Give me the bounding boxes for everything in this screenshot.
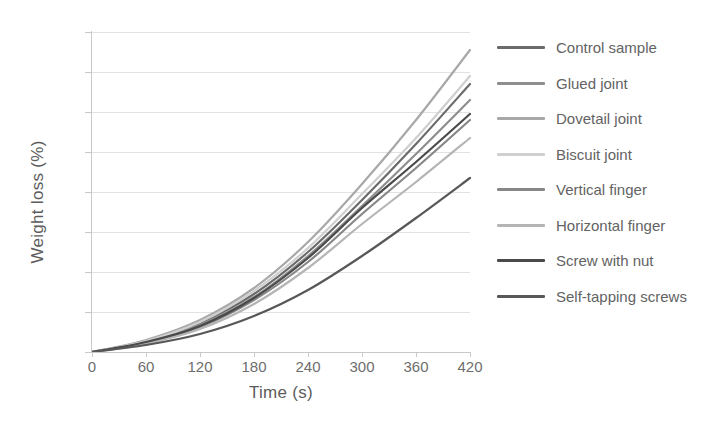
- x-tick-mark: [254, 352, 255, 357]
- x-tick-label: 300: [349, 358, 374, 375]
- legend-swatch-line-icon: [497, 153, 545, 156]
- x-tick-label: 420: [457, 358, 482, 375]
- x-tick-label: 60: [138, 358, 155, 375]
- legend-item[interactable]: Biscuit joint: [497, 137, 712, 173]
- legend-item[interactable]: Self-tapping screws: [497, 279, 712, 315]
- x-tick-mark: [362, 352, 363, 357]
- x-tick-mark: [146, 352, 147, 357]
- legend-swatch-line-icon: [497, 82, 545, 85]
- y-axis-title: Weight loss (%): [28, 82, 48, 322]
- y-tick-mark: [85, 152, 91, 153]
- legend-label: Glued joint: [556, 76, 628, 91]
- x-tick-mark: [308, 352, 309, 357]
- x-tick-label: 240: [295, 358, 320, 375]
- legend-item[interactable]: Horizontal finger: [497, 208, 712, 244]
- legend-label: Screw with nut: [556, 253, 654, 268]
- legend-swatch-line-icon: [497, 259, 545, 262]
- x-tick-label: 120: [187, 358, 212, 375]
- y-axis-line: [91, 31, 92, 353]
- legend-item[interactable]: Glued joint: [497, 66, 712, 102]
- y-tick-mark: [85, 352, 91, 353]
- x-tick-label: 360: [403, 358, 428, 375]
- x-axis-ticks: 060120180240300360420: [0, 358, 720, 382]
- x-axis-title: Time (s): [92, 383, 470, 403]
- plot-area: [92, 32, 470, 352]
- series-line-3: [92, 76, 470, 352]
- x-tick-mark: [470, 352, 471, 357]
- legend-swatch-line-icon: [497, 224, 545, 227]
- legend-label: Vertical finger: [556, 182, 647, 197]
- legend-label: Self-tapping screws: [556, 289, 687, 304]
- legend-label: Horizontal finger: [556, 218, 665, 233]
- x-axis-line: [91, 352, 471, 353]
- y-tick-mark: [85, 112, 91, 113]
- series-line-4: [92, 120, 470, 352]
- y-tick-mark: [85, 312, 91, 313]
- x-tick-mark: [200, 352, 201, 357]
- legend-label: Biscuit joint: [556, 147, 632, 162]
- legend-swatch-line-icon: [497, 295, 545, 298]
- y-tick-mark: [85, 72, 91, 73]
- series-line-1: [92, 100, 470, 352]
- legend-swatch-line-icon: [497, 188, 545, 191]
- series-line-6: [92, 114, 470, 352]
- legend-item[interactable]: Screw with nut: [497, 243, 712, 279]
- y-tick-mark: [85, 232, 91, 233]
- legend-label: Dovetail joint: [556, 111, 642, 126]
- legend-item[interactable]: Control sample: [497, 30, 712, 66]
- series-line-2: [92, 50, 470, 352]
- legend-label: Control sample: [556, 40, 657, 55]
- legend-swatch-line-icon: [497, 46, 545, 49]
- y-tick-mark: [85, 192, 91, 193]
- legend-item[interactable]: Dovetail joint: [497, 101, 712, 137]
- x-tick-label: 180: [241, 358, 266, 375]
- y-tick-mark: [85, 272, 91, 273]
- chart-container: 0246810121416 060120180240300360420 Time…: [0, 0, 720, 431]
- x-tick-label: 0: [88, 358, 96, 375]
- legend-swatch-line-icon: [497, 117, 545, 120]
- y-tick-mark: [85, 32, 91, 33]
- series-lines: [92, 32, 470, 352]
- x-tick-mark: [92, 352, 93, 357]
- legend-item[interactable]: Vertical finger: [497, 172, 712, 208]
- x-tick-mark: [416, 352, 417, 357]
- chart-legend: Control sampleGlued jointDovetail jointB…: [497, 30, 712, 314]
- series-line-7: [92, 178, 470, 352]
